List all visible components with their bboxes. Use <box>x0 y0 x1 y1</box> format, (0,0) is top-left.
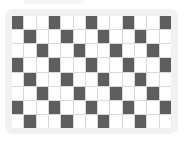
light-cell <box>12 87 23 100</box>
dark-cell <box>123 101 134 114</box>
light-cell <box>37 58 48 71</box>
light-cell <box>123 73 134 86</box>
dark-cell <box>24 115 35 128</box>
light-cell <box>98 87 109 100</box>
dark-cell <box>24 73 35 86</box>
dark-cell <box>135 73 146 86</box>
dark-cell <box>123 58 134 71</box>
dark-cell <box>37 87 48 100</box>
light-cell <box>110 115 121 128</box>
dark-cell <box>98 30 109 43</box>
dark-cell <box>12 16 23 29</box>
light-cell <box>98 58 109 71</box>
light-cell <box>49 44 60 57</box>
light-cell <box>74 73 85 86</box>
light-cell <box>123 115 134 128</box>
dark-cell <box>61 115 72 128</box>
light-cell <box>147 115 158 128</box>
light-cell <box>98 44 109 57</box>
light-cell <box>61 87 72 100</box>
light-cell <box>86 30 97 43</box>
light-cell <box>49 73 60 86</box>
light-cell <box>86 87 97 100</box>
dark-cell <box>12 58 23 71</box>
light-cell <box>123 30 134 43</box>
light-cell <box>74 115 85 128</box>
dark-cell <box>160 16 171 29</box>
light-cell <box>61 16 72 29</box>
light-cell <box>135 44 146 57</box>
light-cell <box>110 58 121 71</box>
light-cell <box>160 87 171 100</box>
light-cell <box>37 16 48 29</box>
light-cell <box>74 58 85 71</box>
dark-cell <box>160 101 171 114</box>
light-cell <box>74 16 85 29</box>
dark-cell <box>61 73 72 86</box>
light-cell <box>61 101 72 114</box>
cut-off-caption <box>24 0 84 4</box>
dark-cell <box>110 44 121 57</box>
light-cell <box>123 87 134 100</box>
light-cell <box>135 16 146 29</box>
dark-cell <box>74 44 85 57</box>
light-cell <box>49 87 60 100</box>
light-cell <box>98 16 109 29</box>
light-cell <box>86 115 97 128</box>
light-cell <box>147 101 158 114</box>
light-cell <box>74 30 85 43</box>
light-cell <box>86 44 97 57</box>
light-cell <box>147 16 158 29</box>
dark-cell <box>49 16 60 29</box>
light-cell <box>37 30 48 43</box>
light-cell <box>24 58 35 71</box>
light-cell <box>61 44 72 57</box>
light-cell <box>160 115 171 128</box>
light-cell <box>12 115 23 128</box>
light-cell <box>24 44 35 57</box>
light-cell <box>24 16 35 29</box>
light-cell <box>135 87 146 100</box>
dark-cell <box>98 73 109 86</box>
light-cell <box>147 73 158 86</box>
light-cell <box>12 73 23 86</box>
light-cell <box>110 73 121 86</box>
dark-cell <box>86 58 97 71</box>
dark-cell <box>24 30 35 43</box>
light-cell <box>147 58 158 71</box>
light-cell <box>110 16 121 29</box>
light-cell <box>86 73 97 86</box>
dark-cell <box>49 101 60 114</box>
dark-cell <box>37 44 48 57</box>
light-cell <box>123 44 134 57</box>
dark-cell <box>147 87 158 100</box>
light-cell <box>74 101 85 114</box>
light-cell <box>160 73 171 86</box>
light-cell <box>110 30 121 43</box>
light-cell <box>24 101 35 114</box>
light-cell <box>49 30 60 43</box>
light-cell <box>98 101 109 114</box>
dark-cell <box>135 30 146 43</box>
dark-cell <box>61 30 72 43</box>
diagonal-checker-grid <box>12 16 171 128</box>
light-cell <box>12 30 23 43</box>
light-cell <box>135 58 146 71</box>
dark-cell <box>86 101 97 114</box>
light-cell <box>37 115 48 128</box>
dark-cell <box>123 16 134 29</box>
light-cell <box>37 101 48 114</box>
light-cell <box>135 101 146 114</box>
dark-cell <box>110 87 121 100</box>
light-cell <box>147 30 158 43</box>
dark-cell <box>98 115 109 128</box>
light-cell <box>110 101 121 114</box>
light-cell <box>12 44 23 57</box>
light-cell <box>160 30 171 43</box>
dark-cell <box>74 87 85 100</box>
light-cell <box>61 58 72 71</box>
light-cell <box>160 44 171 57</box>
light-cell <box>24 87 35 100</box>
dark-cell <box>12 101 23 114</box>
dark-cell <box>86 16 97 29</box>
